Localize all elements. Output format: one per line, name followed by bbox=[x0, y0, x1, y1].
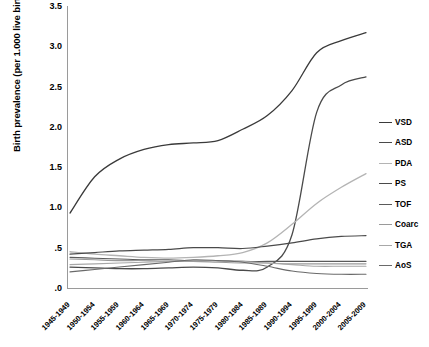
legend-label: AoS bbox=[395, 261, 411, 270]
series-line-vsd bbox=[70, 33, 366, 213]
legend-item-tga[interactable]: TGA bbox=[379, 235, 429, 256]
y-tick-label: 1.0 bbox=[28, 202, 62, 212]
legend-swatch-ps-icon bbox=[379, 183, 392, 184]
y-tick-label: 3.0 bbox=[28, 41, 62, 51]
legend-swatch-coarc-icon bbox=[379, 224, 392, 225]
legend-label: PDA bbox=[395, 159, 412, 168]
line-chart: Birth prevalence (per 1.000 live births)… bbox=[0, 0, 429, 347]
legend-label: Coarc bbox=[395, 220, 418, 229]
x-tick-label: 2005-2009 bbox=[336, 282, 386, 332]
legend-label: PS bbox=[395, 179, 406, 188]
legend-item-coarc[interactable]: Coarc bbox=[379, 215, 429, 236]
legend-swatch-aos-icon bbox=[379, 265, 392, 266]
legend-item-vsd[interactable]: VSD bbox=[379, 112, 429, 133]
y-axis-tick-labels: 3.53.02.52.01.51.0.5.0 bbox=[28, 0, 62, 347]
series-canvas bbox=[68, 6, 368, 288]
y-tick-label: 2.0 bbox=[28, 122, 62, 132]
legend-item-pda[interactable]: PDA bbox=[379, 153, 429, 174]
y-tick-label: .5 bbox=[28, 243, 62, 253]
legend-label: ASD bbox=[395, 138, 412, 147]
legend-swatch-tof-icon bbox=[379, 204, 392, 205]
y-axis-title: Birth prevalence (per 1.000 live births) bbox=[11, 0, 27, 183]
legend: VSDASDPDAPSTOFCoarcTGAAoS bbox=[379, 112, 429, 276]
legend-swatch-pda-icon bbox=[379, 163, 392, 164]
y-tick-label: 1.5 bbox=[28, 162, 62, 172]
legend-label: TGA bbox=[395, 241, 412, 250]
legend-swatch-tga-icon bbox=[379, 245, 392, 246]
y-tick-label: 2.5 bbox=[28, 82, 62, 92]
legend-item-ps[interactable]: PS bbox=[379, 174, 429, 195]
series-line-ps bbox=[70, 236, 366, 255]
series-line-pda bbox=[70, 174, 366, 259]
legend-item-tof[interactable]: TOF bbox=[379, 194, 429, 215]
legend-item-aos[interactable]: AoS bbox=[379, 256, 429, 277]
legend-label: VSD bbox=[395, 118, 412, 127]
y-tick-label: .0 bbox=[28, 283, 62, 293]
plot-area bbox=[67, 6, 368, 289]
legend-swatch-asd-icon bbox=[379, 142, 392, 143]
y-tick-label: 3.5 bbox=[28, 1, 62, 11]
legend-swatch-vsd-icon bbox=[379, 122, 392, 123]
legend-item-asd[interactable]: ASD bbox=[379, 133, 429, 154]
series-line-asd bbox=[70, 77, 366, 271]
legend-label: TOF bbox=[395, 200, 411, 209]
x-axis-tick-labels: 1945-19491950-19541955-19591960-19641965… bbox=[67, 289, 368, 347]
